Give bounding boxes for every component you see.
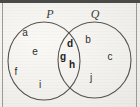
venn-element-e: e (32, 47, 38, 57)
venn-circles-group (0, 0, 140, 107)
venn-element-f: f (15, 67, 18, 77)
venn-element-c: c (108, 52, 113, 62)
frame-right-border (136, 3, 137, 107)
venn-element-g: g (60, 52, 66, 62)
venn-element-b: b (85, 35, 91, 45)
venn-diagram-figure: P Q aefidghbcj (0, 0, 140, 107)
venn-element-h: h (69, 60, 75, 70)
frame-top-border (0, 0, 140, 3)
venn-element-a: a (22, 28, 28, 38)
venn-element-i: i (39, 80, 41, 90)
set-label-p: P (46, 8, 53, 20)
venn-element-j: j (90, 73, 92, 83)
venn-element-d: d (67, 39, 73, 49)
frame-left-border (2, 3, 3, 107)
set-label-q: Q (91, 8, 100, 20)
